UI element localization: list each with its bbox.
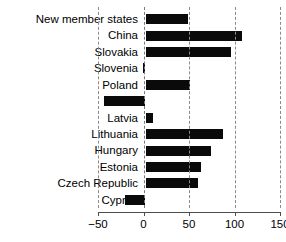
bar	[146, 80, 191, 90]
x-axis-tick-label: 100	[215, 218, 255, 230]
x-axis-tick-label: 50	[169, 218, 209, 230]
x-axis-tick	[280, 212, 281, 216]
bar	[146, 129, 223, 139]
bar-row	[98, 142, 286, 158]
x-axis-tick	[189, 212, 190, 216]
bar	[104, 96, 146, 106]
horizontal-bar-chart: New member statesChinaSlovakiaSloveniaPo…	[0, 0, 286, 242]
bar-row	[98, 110, 286, 126]
bar-row	[98, 175, 286, 191]
gridline	[98, 7, 99, 208]
bar-row	[98, 44, 286, 60]
bar	[146, 162, 202, 172]
bar	[146, 146, 212, 156]
plot-area	[146, 11, 286, 208]
bar-row	[98, 93, 286, 109]
x-axis-line	[98, 212, 280, 213]
x-axis-tick	[144, 212, 145, 216]
gridline	[280, 7, 281, 208]
gridline	[144, 7, 145, 208]
x-axis-tick	[235, 212, 236, 216]
x-axis-tick-label: 150	[260, 218, 286, 230]
gridline	[235, 7, 236, 208]
bar-row	[98, 192, 286, 208]
bar-row	[98, 11, 286, 27]
bar	[125, 195, 146, 205]
gridline	[189, 7, 190, 208]
bar-row	[98, 126, 286, 142]
bar	[146, 31, 242, 41]
bar-row	[98, 60, 286, 76]
bar-row	[98, 77, 286, 93]
bar-row	[98, 27, 286, 43]
bar	[146, 14, 189, 24]
bar	[146, 178, 199, 188]
bar-row	[98, 159, 286, 175]
bar	[146, 113, 153, 123]
x-axis-tick-label: −50	[78, 218, 118, 230]
x-axis-tick	[98, 212, 99, 216]
x-axis-tick-label: 0	[124, 218, 164, 230]
